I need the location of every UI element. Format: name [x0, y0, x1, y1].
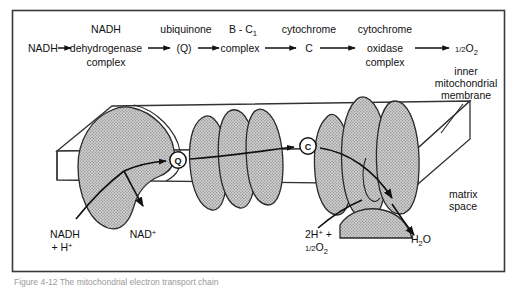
nad-output-text: NAD	[130, 228, 153, 240]
chain-node-nadh-dehydrogenase-line1: NADH	[91, 23, 121, 35]
inner-membrane-label-line1: inner	[454, 65, 478, 77]
nadh-input-line2: + H	[51, 241, 68, 253]
nad-output-superscript: +	[152, 228, 157, 237]
chain-node-nadh: NADH	[28, 42, 58, 54]
c-marker-letter: C	[305, 142, 312, 152]
chain-node-cytochrome-oxidase-line1: cytochrome	[358, 23, 412, 35]
figure-caption-text: Figure 4-12 The mitochondrial electron t…	[14, 277, 219, 287]
inner-membrane-label-line3: membrane	[441, 89, 491, 101]
chain-node-nadh-dehydrogenase-line3: complex	[86, 56, 126, 68]
svg-text:B - C1: B - C1	[229, 23, 257, 38]
chain-node-ubiquinone-line1: ubiquinone	[160, 23, 212, 35]
nadh-input-line1: NADH	[50, 228, 80, 240]
svg-text:2H+ +: 2H+ +	[305, 228, 332, 240]
chain-node-bc1: B - C1 complex	[220, 23, 260, 54]
label-water: H2O	[411, 233, 431, 248]
callout-matrix-space: matrix space	[449, 188, 478, 212]
chain-node-bc1-subscript: 1	[253, 29, 257, 38]
complex-bc1	[190, 109, 284, 210]
protons-oxygen-fraction: 1/2	[305, 244, 316, 253]
protons-oxygen-subscript: 2	[324, 247, 328, 256]
complex-cytochrome-oxidase	[314, 97, 419, 238]
inner-membrane-label-line2: mitochondrial	[435, 77, 497, 89]
protons-oxygen-element: O	[316, 241, 324, 253]
pathway-chain: NADH NADH dehydrogenase complex ubiquino…	[28, 23, 478, 68]
figure-root: NADH NADH dehydrogenase complex ubiquino…	[0, 0, 532, 287]
figure-caption: Figure 4-12 The mitochondrial electron t…	[14, 277, 219, 287]
svg-text:NAD+: NAD+	[130, 228, 157, 240]
protons-oxygen-line1: 2H	[305, 228, 318, 240]
chain-node-nadh-dehydrogenase-line2: dehydrogenase	[70, 42, 143, 54]
water-element: H	[411, 233, 419, 245]
matrix-space-label-line1: matrix	[449, 188, 478, 200]
chain-node-bc1-line1: B - C	[229, 23, 253, 35]
chain-node-cytochrome-oxidase-line2: oxidase	[367, 42, 403, 54]
protons-oxygen-plus: +	[323, 228, 332, 240]
label-nadh-input: NADH + H+	[50, 228, 80, 253]
chain-node-half-o2-element: O	[466, 42, 474, 54]
electron-transport-chain-figure: NADH NADH dehydrogenase complex ubiquino…	[0, 0, 532, 287]
chain-node-cytochrome-c-line2: C	[305, 42, 313, 54]
chain-node-half-o2-fraction: 1/2	[455, 45, 466, 54]
chain-node-half-o2-subscript: 2	[474, 48, 478, 57]
chain-node-cytochrome-oxidase-line3: complex	[365, 56, 405, 68]
nadh-input-superscript: +	[68, 241, 73, 250]
chain-node-cytochrome-c-line1: cytochrome	[282, 23, 336, 35]
chain-node-ubiquinone-line2: (Q)	[176, 42, 191, 54]
chain-node-bc1-line2: complex	[220, 42, 260, 54]
c-marker: C	[300, 138, 316, 154]
svg-text:1/2O2: 1/2O2	[455, 42, 478, 57]
label-protons-oxygen: 2H+ + 1/2O2	[305, 228, 332, 256]
svg-text:1/2O2: 1/2O2	[305, 241, 328, 256]
complex-nadh-dehydrogenase-outline	[78, 107, 174, 229]
chain-node-half-o2: 1/2O2	[455, 42, 478, 57]
complex-nadh-dehydrogenase	[78, 105, 181, 229]
svg-text:+ H+: + H+	[51, 241, 73, 253]
q-marker-letter: Q	[174, 156, 181, 166]
svg-text:H2O: H2O	[411, 233, 431, 248]
matrix-space-label-line2: space	[449, 200, 477, 212]
q-marker: Q	[170, 152, 186, 168]
water-tail: O	[423, 233, 431, 245]
label-nad-output: NAD+	[130, 228, 157, 240]
